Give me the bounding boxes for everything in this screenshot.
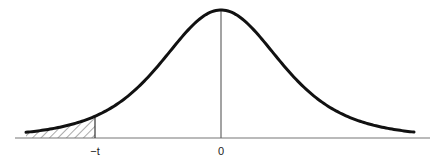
distribution-figure: −t 0 <box>0 0 439 163</box>
zero-label: 0 <box>218 145 224 157</box>
distribution-curve <box>26 10 414 132</box>
neg-t-label: −t <box>90 145 99 157</box>
